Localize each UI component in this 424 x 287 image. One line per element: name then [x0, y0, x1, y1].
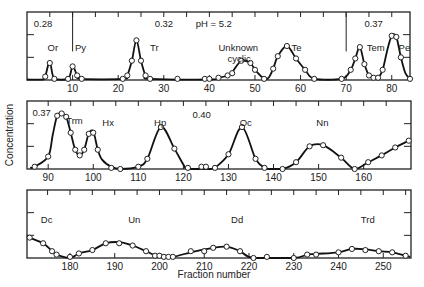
x-tick-label: 30 — [158, 83, 170, 94]
panel-3: 180190200210220230240250DcUnDdTrd — [27, 190, 411, 272]
x-tick-label: 250 — [375, 261, 392, 272]
x-tick-label: 20 — [113, 83, 125, 94]
x-tick-label: 60 — [295, 83, 307, 94]
data-point — [129, 58, 134, 63]
data-point — [380, 67, 385, 72]
data-point — [393, 145, 398, 150]
data-point — [117, 241, 122, 246]
data-point — [41, 241, 46, 246]
peak-label: 0.32 — [155, 18, 174, 29]
data-point — [348, 67, 353, 72]
x-tick-label: 150 — [310, 172, 327, 183]
x-tick-label: 200 — [151, 261, 168, 272]
data-point — [65, 76, 70, 81]
x-tick-label: 190 — [106, 261, 123, 272]
data-point — [390, 250, 395, 255]
data-point — [280, 166, 285, 171]
data-point — [207, 76, 212, 81]
data-point — [252, 67, 257, 72]
data-point — [91, 130, 96, 135]
data-point — [349, 246, 354, 251]
data-point — [339, 76, 344, 81]
peak-label: pH = 5.2 — [196, 18, 232, 29]
data-point — [224, 244, 229, 249]
data-point — [185, 165, 190, 170]
peak-label: Oc — [240, 117, 252, 128]
data-point — [353, 56, 358, 61]
data-point — [407, 76, 412, 81]
data-point — [398, 55, 403, 60]
data-point — [172, 146, 177, 151]
data-point — [109, 165, 114, 170]
data-point — [357, 45, 362, 50]
peak-label: Tem — [367, 42, 385, 53]
x-tick-label: 230 — [285, 261, 302, 272]
x-tick-label: 240 — [330, 261, 347, 272]
data-point — [43, 74, 48, 79]
x-tick-label: 180 — [62, 261, 79, 272]
data-point — [253, 156, 258, 161]
peak-label: 0.28 — [34, 18, 53, 29]
panel-1: 10203040506070800.280.32pH = 5.2OrPyTrUn… — [27, 12, 413, 94]
x-tick-label: 130 — [220, 172, 237, 183]
peak-label: Te — [291, 42, 301, 53]
data-point — [54, 252, 59, 257]
data-point — [90, 247, 95, 252]
data-point — [52, 76, 57, 81]
data-point — [203, 164, 208, 169]
data-point — [376, 249, 381, 254]
data-point — [145, 156, 150, 161]
x-tick-label: 100 — [85, 172, 102, 183]
data-point — [379, 153, 384, 158]
panel-2: 901001101201301401501600.37TrmHxHp0.40Oc… — [27, 101, 411, 183]
peak-label: Nn — [316, 117, 328, 128]
concentration-curve — [30, 113, 409, 169]
peak-label: Dd — [231, 214, 243, 225]
peak-label: Hx — [102, 117, 114, 128]
peak-label: Un — [128, 214, 140, 225]
panel-frame — [27, 101, 411, 169]
data-point — [375, 75, 380, 80]
data-point — [125, 73, 130, 78]
peak-label: cyclic — [228, 53, 251, 64]
data-point — [293, 56, 298, 61]
data-point — [32, 164, 37, 169]
data-point — [237, 249, 242, 254]
x-tick-label: 160 — [355, 172, 372, 183]
data-point — [59, 111, 64, 116]
chart-panels: 10203040506070800.280.32pH = 5.2OrPyTrUn… — [27, 12, 413, 272]
peak-label: 0.37 — [364, 18, 383, 29]
x-tick-label: 40 — [204, 83, 216, 94]
data-point — [134, 38, 139, 43]
data-point — [226, 152, 231, 157]
data-point — [27, 235, 32, 240]
data-point — [314, 252, 319, 257]
data-point — [130, 243, 135, 248]
data-point — [403, 253, 408, 258]
data-point — [143, 249, 148, 254]
data-point — [291, 255, 296, 260]
x-tick-label: 120 — [175, 172, 192, 183]
data-point — [406, 138, 411, 143]
data-point — [394, 34, 399, 39]
x-axis-label: Fraction number — [178, 269, 251, 280]
peak-label: Trd — [361, 214, 375, 225]
peak-label: Unknown — [219, 42, 259, 53]
data-point — [170, 254, 175, 259]
data-point — [46, 154, 51, 159]
peak-label: Dc — [41, 214, 53, 225]
data-point — [73, 147, 78, 152]
data-point — [321, 143, 326, 148]
peak-label: Or — [48, 42, 59, 53]
chromatogram-chart: 10203040506070800.280.32pH = 5.2OrPyTrUn… — [0, 0, 424, 287]
data-point — [148, 76, 153, 81]
data-point — [251, 255, 256, 260]
data-point — [366, 160, 371, 165]
data-point — [362, 62, 367, 67]
data-point — [188, 249, 193, 254]
data-point — [339, 155, 344, 160]
data-point — [67, 254, 72, 259]
data-point — [216, 75, 221, 80]
x-tick-label: 80 — [386, 83, 398, 94]
data-point — [211, 245, 216, 250]
